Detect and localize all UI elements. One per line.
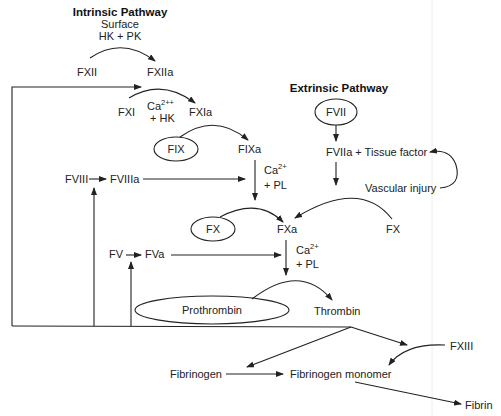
prothrombin-activation-arrow [252,281,332,300]
intrinsic-cofactor-surface: Surface [101,18,139,30]
node-fxiii: FXIII [450,340,473,352]
node-fvii: FVII [326,106,346,118]
node-fviiia: FVIIIa [110,173,140,185]
node-fxi: FXI [118,106,135,118]
node-fxa: FXa [277,223,298,235]
monomer-to-fibrin-arrow [355,382,461,404]
node-fviia-tissue-factor: FVIIa + Tissue factor [326,146,428,158]
thrombin-to-fibrinogen-arrow [247,327,351,367]
node-fibrinogen: Fibrinogen [170,368,222,380]
node-fix: FIX [167,143,185,155]
fx-intrinsic-activation-arrow [220,208,283,222]
fix-activation-arrow [180,125,248,140]
coagulation-cascade-diagram: Intrinsic Pathway Surface HK + PK FXII F… [0,0,501,416]
node-fx-left: FX [206,223,221,235]
node-prothrombin: Prothrombin [182,304,242,316]
fixa-cofactor-pl: + PL [264,179,287,191]
node-fva: FVa [145,248,165,260]
node-fixa: FIXa [238,143,262,155]
node-thrombin: Thrombin [314,305,360,317]
node-fviii: FVIII [65,173,88,185]
node-fx-right: FX [386,223,401,235]
fxi-cofactor-ca: Ca2++ [147,98,175,112]
extrinsic-pathway-title: Extrinsic Pathway [290,82,389,94]
fxi-cofactor-hk: + HK [150,112,175,124]
node-fxiia: FXIIa [147,66,174,78]
node-fibrinogen-monomer: Fibrinogen monomer [290,368,392,380]
fixa-cofactor-ca: Ca2+ [264,162,287,176]
node-fxia: FXIa [189,106,213,118]
thrombin-feedback-fxi-line [12,87,141,326]
thrombin-to-fxiii-arrow [351,327,407,345]
fxa-cofactor-pl: + PL [296,258,319,270]
fxii-activation-arrow [90,48,155,61]
intrinsic-pathway-title: Intrinsic Pathway [73,6,168,18]
node-fv: FV [109,248,124,260]
thrombin-feedback-base-line [12,326,351,327]
fxa-cofactor-ca: Ca2+ [296,242,319,256]
fxiii-activation-arrow [389,345,445,365]
intrinsic-cofactor-hk-pk: HK + PK [99,30,142,42]
fx-extrinsic-activation-arrow [295,198,392,219]
node-fxii: FXII [77,66,97,78]
node-fibrin: Fibrin [465,399,493,411]
node-vascular-injury: Vascular injury [365,182,437,194]
